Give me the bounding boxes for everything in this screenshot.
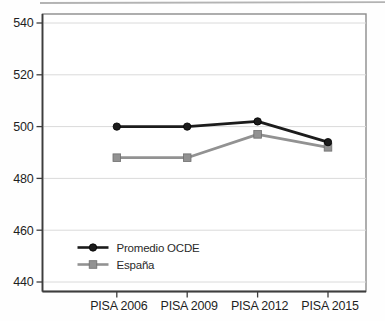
data-point-marker: [184, 123, 191, 130]
data-point-marker: [89, 261, 97, 269]
data-point-marker: [324, 138, 331, 145]
y-tick-label: 520: [13, 68, 34, 82]
y-tick-label: 500: [13, 120, 34, 134]
y-tick-label: 540: [13, 16, 34, 30]
data-point-marker: [254, 131, 262, 139]
pisa-trend-chart: 440460480500520540PISA 2006PISA 2009PISA…: [0, 0, 385, 321]
scan-edge-artifact: [40, 2, 385, 3]
data-point-marker: [89, 244, 96, 251]
y-tick-label: 480: [13, 172, 34, 186]
x-tick-label: PISA 2006: [90, 299, 148, 313]
chart-canvas: 440460480500520540PISA 2006PISA 2009PISA…: [0, 0, 385, 321]
x-tick-label: PISA 2009: [161, 299, 219, 313]
data-point-marker: [113, 123, 120, 130]
data-point-marker: [254, 118, 261, 125]
y-tick-label: 460: [13, 224, 34, 238]
data-point-marker: [113, 154, 121, 162]
y-tick-label: 440: [13, 275, 34, 289]
legend-label: España: [117, 259, 156, 271]
x-tick-label: PISA 2012: [231, 299, 289, 313]
legend-label: Promedio OCDE: [117, 242, 201, 254]
x-tick-label: PISA 2015: [301, 299, 359, 313]
data-point-marker: [183, 154, 191, 162]
